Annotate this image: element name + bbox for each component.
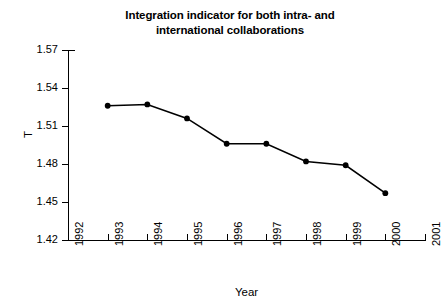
y-tick-label: 1.54 (37, 81, 58, 94)
plot-area: 1.421.451.481.511.541.57 199219931994199… (68, 50, 425, 240)
data-point (303, 159, 309, 165)
data-point (343, 162, 349, 168)
y-tick-label: 1.51 (37, 119, 58, 132)
data-point (105, 103, 111, 109)
series-markers (105, 102, 388, 196)
data-point (382, 190, 388, 196)
data-point (184, 116, 190, 122)
data-point (224, 141, 230, 147)
y-axis-label: T (22, 131, 34, 138)
chart-title: Integration indicator for both intra- an… (60, 8, 400, 38)
data-point (144, 102, 150, 108)
chart-title-line-2: international collaborations (60, 23, 400, 38)
y-tick-label: 1.42 (37, 233, 58, 246)
chart-title-line-1: Integration indicator for both intra- an… (60, 8, 400, 23)
x-tick (425, 234, 426, 241)
data-point (263, 141, 269, 147)
data-series-line (68, 50, 425, 241)
x-tick-label: 2001 (430, 222, 442, 246)
x-axis-label: Year (68, 286, 425, 298)
series-polyline (108, 104, 386, 193)
y-tick-label: 1.48 (37, 157, 58, 170)
y-tick-label: 1.45 (37, 195, 58, 208)
y-tick-label: 1.57 (37, 43, 58, 56)
